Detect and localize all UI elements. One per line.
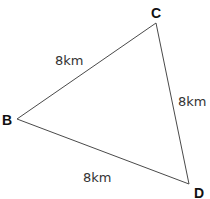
vertex-label-d: D [194,185,204,199]
edge-bc [17,23,156,119]
edge-label-bd: 8km [83,170,111,185]
edge-label-bc: 8km [55,53,83,68]
edge-label-cd: 8km [178,94,206,109]
vertex-label-b: B [2,112,12,128]
vertex-label-c: C [151,5,161,21]
triangle-diagram: B C D 8km 8km 8km [0,0,210,199]
